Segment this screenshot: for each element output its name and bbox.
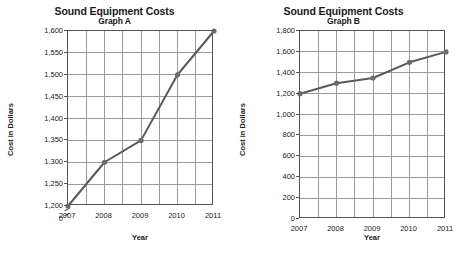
chart-b-subtitle: Graph B — [229, 16, 458, 26]
x-axis-tick-label: 2008 — [95, 211, 112, 220]
data-point-marker — [443, 49, 448, 54]
x-axis-tick-label: 2009 — [364, 224, 381, 233]
y-axis-tick-mark — [296, 218, 299, 219]
y-axis-tick-label: 200 — [265, 193, 295, 202]
x-axis-tick-label: 2007 — [59, 211, 76, 220]
y-axis-tick-label: 1,300 — [33, 157, 63, 166]
y-axis-tick-mark — [64, 183, 67, 184]
chart-a-plot-area — [67, 30, 213, 205]
y-axis-tick-label: 0 — [265, 214, 295, 223]
x-axis-tick-label: 2008 — [327, 224, 344, 233]
y-axis-tick-label: 400 — [265, 172, 295, 181]
y-axis-tick-mark — [296, 176, 299, 177]
y-axis-tick-mark — [64, 96, 67, 97]
x-axis-tick-label: 2010 — [168, 211, 185, 220]
y-axis-tick-mark — [296, 30, 299, 31]
y-axis-tick-mark — [64, 30, 67, 31]
y-axis-tick-mark — [296, 114, 299, 115]
y-axis-tick-mark — [296, 134, 299, 135]
y-axis-tick-label: 600 — [265, 151, 295, 160]
chart-panel-graph-b: Sound Equipment Costs Graph B Cost in Do… — [229, 0, 458, 253]
y-axis-tick-mark — [296, 197, 299, 198]
series-line — [68, 31, 214, 206]
y-axis-tick-label: 1,000 — [265, 109, 295, 118]
chart-panel-graph-a: Sound Equipment Costs Graph A Cost in Do… — [0, 0, 229, 253]
chart-b-plot-area — [299, 30, 445, 218]
y-axis-tick-label: 1,200 — [33, 201, 63, 210]
y-axis-tick-mark — [64, 118, 67, 119]
data-point-marker — [211, 28, 216, 33]
y-axis-tick-mark — [64, 139, 67, 140]
x-axis-tick-label: 2010 — [400, 224, 417, 233]
y-axis-tick-mark — [296, 93, 299, 94]
y-axis-tick-mark — [296, 51, 299, 52]
series-line — [300, 52, 446, 94]
data-point-marker — [102, 160, 107, 165]
dual-chart-figure: Sound Equipment Costs Graph A Cost in Do… — [0, 0, 458, 253]
data-point-marker — [175, 72, 180, 77]
y-axis-tick-label: 1,250 — [33, 179, 63, 188]
x-axis-tick-label: 2011 — [437, 224, 453, 233]
chart-b-x-axis-label: Year — [299, 233, 445, 242]
y-axis-tick-label: 1,400 — [33, 113, 63, 122]
y-axis-tick-label: 800 — [265, 130, 295, 139]
chart-a-subtitle: Graph A — [0, 16, 229, 26]
y-axis-tick-mark — [64, 52, 67, 53]
y-axis-tick-mark — [296, 155, 299, 156]
y-axis-tick-mark — [296, 72, 299, 73]
data-point-marker — [370, 75, 375, 80]
y-axis-tick-label: 1,550 — [33, 47, 63, 56]
data-point-marker — [138, 138, 143, 143]
x-axis-tick-label: 2009 — [132, 211, 149, 220]
x-axis-tick-label: 2007 — [291, 224, 308, 233]
y-axis-tick-label: 1,200 — [265, 88, 295, 97]
y-axis-tick-mark — [64, 161, 67, 162]
x-axis-tick-label: 2011 — [205, 211, 221, 220]
y-axis-tick-mark — [64, 205, 67, 206]
data-series-layer — [300, 31, 446, 219]
y-axis-tick-mark — [64, 74, 67, 75]
data-series-layer — [68, 31, 214, 206]
chart-b-y-axis-label: Cost in Dollars — [238, 95, 247, 165]
chart-a-y-axis-label: Cost in Dollars — [6, 95, 15, 165]
y-axis-tick-label: 1,350 — [33, 135, 63, 144]
data-point-marker — [407, 60, 412, 65]
y-axis-tick-label: 1,800 — [265, 26, 295, 35]
y-axis-tick-label: 1,600 — [33, 26, 63, 35]
y-axis-tick-label: 1,400 — [265, 67, 295, 76]
chart-a-x-axis-label: Year — [67, 233, 213, 242]
y-axis-tick-label: 1,600 — [265, 46, 295, 55]
y-axis-tick-label: 1,450 — [33, 91, 63, 100]
data-point-marker — [334, 81, 339, 86]
y-axis-tick-label: 1,500 — [33, 69, 63, 78]
